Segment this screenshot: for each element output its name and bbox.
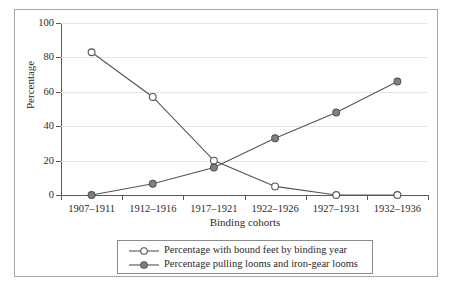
x-axis-tick <box>122 195 123 200</box>
legend-item-bound-feet[interactable]: Percentage with bound feet by binding ye… <box>118 244 372 257</box>
x-axis-tick-label: 1922–1926 <box>251 204 298 215</box>
series-line-0 <box>92 52 398 195</box>
x-axis-tick-label: 1907–1911 <box>68 204 115 215</box>
x-axis-tick <box>245 195 246 200</box>
x-axis-tick <box>367 195 368 200</box>
x-axis-tick <box>306 195 307 200</box>
series-line-1 <box>92 81 398 195</box>
y-axis-tick-label: 80 <box>44 52 55 63</box>
data-point-1-0[interactable] <box>88 192 95 199</box>
x-axis-tick <box>61 195 62 200</box>
y-axis-label: Percentage <box>24 61 36 109</box>
data-point-0-2[interactable] <box>211 157 218 164</box>
x-axis-tick-label: 1912–1916 <box>129 204 176 215</box>
legend-marker-open-circle <box>129 245 159 257</box>
data-point-1-4[interactable] <box>333 109 340 116</box>
legend-marker-filled-circle <box>129 259 159 271</box>
data-point-0-4[interactable] <box>333 192 340 199</box>
legend-label-bound-feet: Percentage with bound feet by binding ye… <box>164 245 347 256</box>
data-point-0-0[interactable] <box>88 49 95 56</box>
legend-label-looms: Percentage pulling looms and iron-gear l… <box>164 259 358 270</box>
plot-area: 020406080100 1907–19111912–19161917–1921… <box>61 23 428 195</box>
y-axis-tick-label: 60 <box>44 87 55 98</box>
series-layer <box>61 23 428 195</box>
x-axis-tick-label: 1917–1921 <box>190 204 237 215</box>
x-axis-tick <box>428 195 429 200</box>
y-axis-tick-label: 20 <box>44 155 55 166</box>
y-axis-tick-label: 0 <box>49 190 54 201</box>
data-point-1-3[interactable] <box>272 135 279 142</box>
data-point-0-1[interactable] <box>149 94 156 101</box>
data-point-0-5[interactable] <box>394 192 401 199</box>
x-axis-tick-label: 1927–1931 <box>313 204 360 215</box>
legend-item-looms[interactable]: Percentage pulling looms and iron-gear l… <box>118 258 372 271</box>
x-axis-tick <box>183 195 184 200</box>
y-axis-tick-label: 40 <box>44 121 55 132</box>
data-point-1-2[interactable] <box>211 164 218 171</box>
x-axis-tick-label: 1932–1936 <box>374 204 421 215</box>
data-point-1-1[interactable] <box>149 180 156 187</box>
data-point-1-5[interactable] <box>394 78 401 85</box>
y-axis-tick-label: 100 <box>38 18 54 29</box>
chart-figure: Percentage 020406080100 1907–19111912–19… <box>0 0 452 288</box>
x-axis-label: Binding cohorts <box>61 216 429 228</box>
chart-legend: Percentage with bound feet by binding ye… <box>117 240 373 274</box>
data-point-0-3[interactable] <box>272 183 279 190</box>
